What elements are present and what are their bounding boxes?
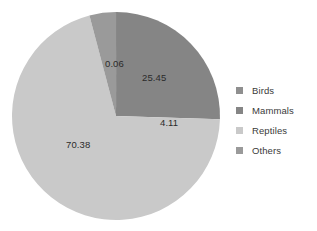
pie-plot-area: 0.06 25.45 4.11 70.38 bbox=[0, 0, 232, 231]
legend-swatch-icon bbox=[236, 127, 243, 134]
chart-legend: Birds Mammals Reptiles Others bbox=[236, 80, 316, 160]
legend-label-birds: Birds bbox=[252, 85, 274, 96]
slice-label-birds: 0.06 bbox=[105, 58, 124, 69]
pie-slices-svg bbox=[0, 0, 232, 231]
legend-label-reptiles: Reptiles bbox=[252, 125, 287, 136]
legend-item-others[interactable]: Others bbox=[236, 140, 316, 160]
pie-slice-mammals[interactable] bbox=[116, 12, 220, 119]
legend-swatch-icon bbox=[236, 107, 243, 114]
legend-item-reptiles[interactable]: Reptiles bbox=[236, 120, 316, 140]
legend-item-mammals[interactable]: Mammals bbox=[236, 100, 316, 120]
slice-label-others: 4.11 bbox=[160, 117, 178, 128]
legend-label-mammals: Mammals bbox=[252, 105, 294, 116]
legend-label-others: Others bbox=[252, 145, 281, 156]
slice-label-reptiles: 70.38 bbox=[66, 139, 90, 150]
pie-chart: 0.06 25.45 4.11 70.38 Birds Mammals Rept… bbox=[0, 0, 317, 231]
slice-label-mammals: 25.45 bbox=[142, 72, 166, 83]
legend-swatch-icon bbox=[236, 87, 243, 94]
legend-swatch-icon bbox=[236, 147, 243, 154]
legend-item-birds[interactable]: Birds bbox=[236, 80, 316, 100]
